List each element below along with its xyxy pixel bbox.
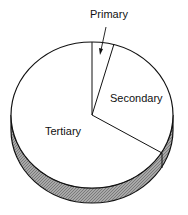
label-primary: Primary (90, 8, 128, 20)
label-secondary: Secondary (110, 92, 163, 104)
label-tertiary: Tertiary (45, 125, 81, 137)
pie-chart (0, 0, 188, 215)
